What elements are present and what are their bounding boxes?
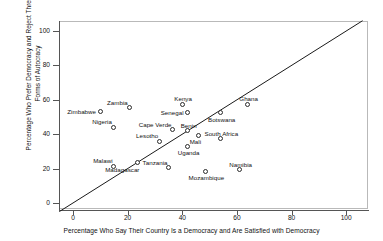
data-point: [157, 139, 162, 144]
data-point-label: Ghana: [239, 95, 258, 102]
data-point-label: Mozambique: [189, 174, 225, 181]
data-point-label: Botswana: [208, 116, 235, 123]
data-point-label: Benin: [181, 122, 197, 129]
data-point-label: Kenya: [174, 95, 192, 102]
x-axis-line: [59, 210, 369, 211]
data-point-label: Lesotho: [136, 132, 158, 139]
x-tick-label: 0: [61, 214, 85, 221]
data-point-label: Mali: [190, 138, 201, 145]
y-tick: [53, 65, 59, 66]
y-tick-label: 80: [26, 61, 50, 68]
x-tick-label: 60: [225, 214, 249, 221]
data-point-label: Senegal: [161, 109, 184, 116]
data-point: [203, 169, 208, 174]
data-point-label: South Africa: [205, 130, 239, 137]
data-point-label: Uganda: [178, 149, 200, 156]
x-axis-title: Percentage Who Say Their Country Is a De…: [0, 227, 383, 234]
data-point-label: Namibia: [229, 161, 252, 168]
y-tick-label: 100: [26, 27, 50, 34]
data-point: [245, 102, 250, 107]
x-tick-label: 100: [334, 214, 358, 221]
y-tick-label: 60: [26, 96, 50, 103]
y-tick: [53, 100, 59, 101]
data-point-label: Cape Verde: [139, 121, 172, 128]
data-point-label: Zambia: [107, 99, 128, 106]
y-tick: [53, 134, 59, 135]
data-point: [185, 144, 190, 149]
data-point: [135, 160, 140, 165]
y-tick-label: 20: [26, 165, 50, 172]
data-point-label: Nigeria: [92, 118, 112, 125]
data-point: [196, 133, 201, 138]
x-tick-label: 20: [116, 214, 140, 221]
y-tick: [53, 203, 59, 204]
data-point-label: Madagascar: [105, 166, 139, 173]
y-tick-label: 40: [26, 130, 50, 137]
y-tick: [53, 169, 59, 170]
y-tick: [53, 31, 59, 32]
data-point: [127, 105, 132, 110]
y-tick-label: 0: [26, 199, 50, 206]
data-point-label: Tanzania: [143, 159, 168, 166]
data-point-label: Malawi: [93, 157, 112, 164]
y-axis-line: [59, 21, 60, 211]
data-point-label: Zimbabwe: [67, 108, 96, 115]
x-tick-label: 80: [280, 214, 304, 221]
x-tick-label: 40: [170, 214, 194, 221]
data-point: [180, 102, 185, 107]
data-point: [218, 136, 223, 141]
data-point: [111, 125, 116, 130]
scatter-plot-figure: Percentage Who Prefer Democracy and Reje…: [0, 0, 383, 241]
